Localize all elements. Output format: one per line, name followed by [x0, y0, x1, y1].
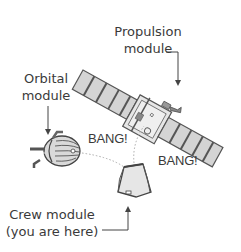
separation-path-orbital [82, 153, 124, 167]
arrow-crew [102, 206, 131, 230]
label-orbital-line2: module [14, 87, 78, 104]
propulsion-module [68, 57, 230, 174]
label-propulsion-line2: module [108, 40, 188, 57]
label-propulsion-line1: Propulsion [108, 23, 188, 40]
arrow-propulsion [166, 52, 181, 86]
label-propulsion-module: Propulsion module [108, 23, 188, 57]
label-crew-module: Crew module (you are here) [4, 206, 100, 240]
orbital-module [30, 132, 80, 168]
label-orbital-module: Orbital module [14, 70, 78, 104]
arrow-orbital [45, 106, 51, 135]
label-crew-line1: Crew module [4, 206, 100, 223]
label-orbital-line1: Orbital [14, 70, 78, 87]
label-crew-line2: (you are here) [4, 223, 100, 240]
bang-text-right: BANG! [158, 153, 197, 168]
crew-module [118, 164, 151, 197]
bang-text-left: BANG! [88, 131, 127, 146]
